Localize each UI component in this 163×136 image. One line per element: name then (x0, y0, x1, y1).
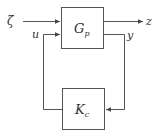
y-label: y (126, 29, 134, 42)
block-diagram: Gp Kc ζ z u y (0, 0, 163, 136)
u-feedback-line (44, 35, 63, 110)
controller-label: Kc (74, 102, 90, 119)
z-label: z (145, 15, 152, 28)
controller-block: Kc (63, 89, 105, 130)
u-label: u (32, 28, 39, 41)
y-measurement-line (104, 35, 125, 110)
zeta-label: ζ (7, 14, 15, 28)
plant-block: Gp (62, 8, 104, 49)
plant-label: Gp (74, 21, 90, 38)
